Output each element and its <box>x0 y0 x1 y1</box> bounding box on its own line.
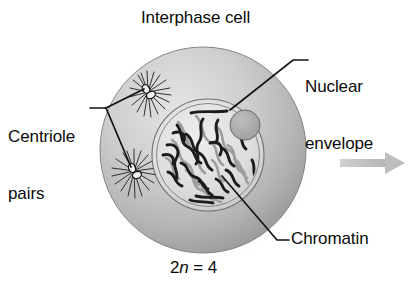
centriole-pairs-label-line2: pairs <box>8 184 75 203</box>
centriole-pairs-label-line1: Centriole <box>8 127 75 146</box>
nucleus <box>152 99 264 211</box>
ploidy-suffix: = 4 <box>189 258 217 277</box>
nuclear-envelope-label-line2: envelope <box>305 134 373 153</box>
chromatin-label: Chromatin <box>291 229 369 248</box>
nuclear-envelope-label: Nuclear envelope <box>305 39 373 172</box>
page-title: Interphase cell <box>141 8 250 27</box>
nucleolus <box>230 110 260 140</box>
centriole-pairs-label: Centriole pairs <box>8 89 75 222</box>
ploidy-prefix: 2 <box>170 258 179 277</box>
ploidy-caption: 2n = 4 <box>170 258 217 277</box>
nuclear-envelope-label-line1: Nuclear <box>305 77 373 96</box>
ploidy-variable: n <box>179 258 188 277</box>
